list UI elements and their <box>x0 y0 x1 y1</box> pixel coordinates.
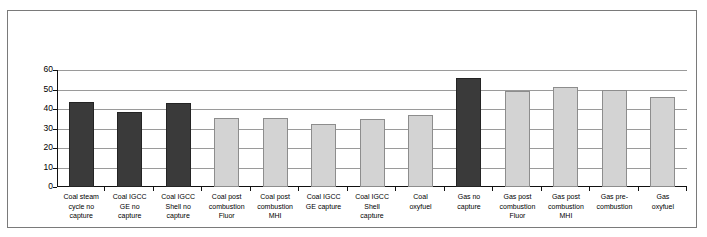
x-axis-tick-label: Gas postcombustionMHI <box>542 192 590 226</box>
x-axis-tick-cell <box>202 187 250 191</box>
bar <box>117 112 142 187</box>
x-axis-tick-label-line: Fluor <box>494 211 540 221</box>
y-axis-tick-label: 60 <box>37 65 53 74</box>
bar-slot <box>590 70 638 187</box>
y-axis-tick-mark <box>53 109 57 110</box>
bar-slot <box>251 70 299 187</box>
bar-slot <box>542 70 590 187</box>
x-axis-tick-label: Coal postcombustionMHI <box>251 192 299 226</box>
x-axis-tick-label-line: combustion <box>252 202 298 212</box>
x-axis-tick-label-line: combustion <box>203 202 249 212</box>
x-axis-tick-label-line: cycle no <box>58 202 104 212</box>
x-axis-tick-labels: Coal steamcycle nocaptureCoal IGCCGE noc… <box>57 192 687 226</box>
bar <box>505 91 530 187</box>
x-axis-tick-cell <box>590 187 638 191</box>
y-axis-tick-labels: 6050403020100 <box>33 70 53 187</box>
x-axis-tick-label-line: Gas post <box>543 192 589 202</box>
bar <box>214 118 239 187</box>
x-axis-tick-label-line: Gas post <box>494 192 540 202</box>
x-axis-tick-cell <box>105 187 153 191</box>
x-axis-tick-cell <box>639 187 687 191</box>
x-axis-tick-label-line: Coal IGCC <box>300 192 346 202</box>
x-axis-tick-cell <box>57 187 105 191</box>
bar-slot <box>348 70 396 187</box>
x-axis-tick-cell <box>348 187 396 191</box>
x-axis-tick-label-line: Coal IGCC <box>349 192 395 202</box>
y-axis-tick-mark <box>53 187 57 188</box>
x-axis-tick-cell <box>299 187 347 191</box>
x-axis-tick-label: Coal postcombustionFluor <box>202 192 250 226</box>
x-axis-tick-label: Gas postcombustionFluor <box>493 192 541 226</box>
x-axis-tick-label-line: MHI <box>252 211 298 221</box>
y-axis-tick-mark <box>53 90 57 91</box>
x-axis-tick-label: Gas nocapture <box>445 192 493 226</box>
x-axis-tick-label-line: Coal steam <box>58 192 104 202</box>
y-axis-tick-mark <box>53 70 57 71</box>
x-axis-tick-label: Coal IGCCShellcapture <box>348 192 396 226</box>
x-axis-tick-label-line: Gas <box>640 192 686 202</box>
x-axis-tick-label-line: Shell <box>349 202 395 212</box>
x-axis-tick-label: Coaloxyfuel <box>396 192 444 226</box>
x-axis-tick-mark <box>686 187 687 191</box>
bar <box>360 119 385 187</box>
x-axis-tick-label: Coal IGCCGE nocapture <box>105 192 153 226</box>
bar <box>602 90 627 187</box>
x-axis-tick-label-line: capture <box>155 211 201 221</box>
x-axis-tick-label-line: MHI <box>543 211 589 221</box>
chart-figure: Power generation efficiency (% LHV basis… <box>0 0 707 237</box>
x-axis-tick-cell <box>542 187 590 191</box>
x-axis-tick-cell <box>251 187 299 191</box>
y-axis-tick-label: 20 <box>37 143 53 152</box>
x-axis-tick-label-line: Fluor <box>203 211 249 221</box>
y-axis-tick-label: 40 <box>37 104 53 113</box>
x-axis-tick-label-line: capture <box>349 211 395 221</box>
x-axis-tick-label-line: Gas no <box>446 192 492 202</box>
x-axis-tick-label-line: Coal <box>397 192 443 202</box>
bar <box>166 103 191 187</box>
x-axis-tick-label-line: Shell no <box>155 202 201 212</box>
x-axis-tick-label-line: Coal post <box>203 192 249 202</box>
bar <box>69 102 94 187</box>
x-axis-tick-cell <box>445 187 493 191</box>
x-axis-tick-label: Gas pre-combustion <box>590 192 638 226</box>
x-axis-tick-label-line: Coal IGCC <box>155 192 201 202</box>
x-axis-tick-marks <box>57 187 687 191</box>
x-axis-tick-label-line: oxyfuel <box>397 202 443 212</box>
bar-slot <box>639 70 687 187</box>
bar <box>650 97 675 187</box>
bar-slot <box>493 70 541 187</box>
x-axis-tick-label-line: combustion <box>494 202 540 212</box>
y-axis-tick-mark <box>53 168 57 169</box>
bar-slot <box>299 70 347 187</box>
x-axis-tick-label: Coal IGCCShell nocapture <box>154 192 202 226</box>
bar <box>311 124 336 187</box>
x-axis-tick-label-line: Gas pre- <box>591 192 637 202</box>
bar-slot <box>57 70 105 187</box>
x-axis-tick-label: Gasoxyfuel <box>639 192 687 226</box>
x-axis-tick-label: Coal steamcycle nocapture <box>57 192 105 226</box>
x-axis-tick-cell <box>396 187 444 191</box>
y-axis-tick-label: 0 <box>37 182 53 191</box>
x-axis-tick-label: Coal IGCCGE capture <box>299 192 347 226</box>
x-axis-tick-label-line: combustion <box>591 202 637 212</box>
x-axis-tick-label-line: capture <box>106 211 152 221</box>
y-axis-tick-mark <box>53 148 57 149</box>
bar <box>456 78 481 187</box>
y-axis-tick-mark <box>53 129 57 130</box>
bar <box>408 115 433 187</box>
bar-slot <box>202 70 250 187</box>
bar-series <box>57 70 687 187</box>
y-axis-tick-label: 10 <box>37 163 53 172</box>
x-axis-tick-label-line: capture <box>58 211 104 221</box>
x-axis-tick-label-line: GE capture <box>300 202 346 212</box>
bar <box>263 118 288 187</box>
x-axis-tick-label-line: Coal post <box>252 192 298 202</box>
x-axis-tick-label-line: oxyfuel <box>640 202 686 212</box>
x-axis-tick-cell <box>493 187 541 191</box>
y-axis-tick-label: 50 <box>37 85 53 94</box>
bar-slot <box>154 70 202 187</box>
y-axis-tick-label: 30 <box>37 124 53 133</box>
x-axis-tick-label-line: combustion <box>543 202 589 212</box>
x-axis-tick-label-line: GE no <box>106 202 152 212</box>
bar <box>553 87 578 187</box>
